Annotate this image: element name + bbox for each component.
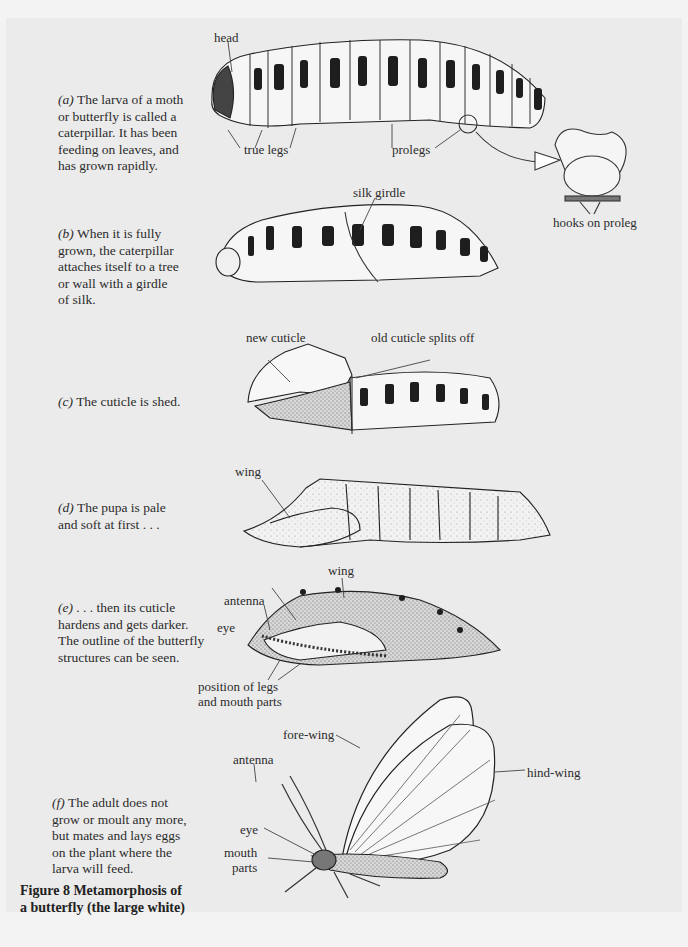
label-true-legs: true legs xyxy=(244,142,288,157)
hardened-pupa-drawing xyxy=(248,587,500,665)
proleg-hooks-detail-drawing xyxy=(555,129,626,214)
figure-title-line-1: Figure 8 Metamorphosis of xyxy=(20,882,240,899)
soft-pupa-drawing xyxy=(244,479,550,547)
label-eye-adult: eye xyxy=(240,822,258,837)
label-position-of-legs: position of legs xyxy=(198,679,278,694)
label-and-mouth-parts: and mouth parts xyxy=(198,694,282,709)
caption-stage-e: (e) . . . then its cuticle hardens and g… xyxy=(58,600,238,666)
caption-stage-a: (a) The larva of a moth or butterfly is … xyxy=(58,92,218,175)
caption-stage-f: (f) The adult does not grow or moult any… xyxy=(52,795,232,878)
cuticle-shedding-drawing xyxy=(248,344,499,434)
label-hind-wing: hind-wing xyxy=(527,765,580,780)
figure-caption: Figure 8 Metamorphosis of a butterfly (t… xyxy=(20,882,240,916)
label-new-cuticle: new cuticle xyxy=(246,330,306,345)
label-parts: parts xyxy=(232,860,257,875)
caterpillar-girdle-drawing xyxy=(216,205,498,282)
figure-title-line-2: a butterfly (the large white) xyxy=(20,899,240,916)
label-prolegs: prolegs xyxy=(392,142,430,157)
label-wing-dark-pupa: wing xyxy=(328,563,354,578)
label-old-cuticle-splits-off: old cuticle splits off xyxy=(371,330,474,345)
caption-stage-c: (c) The cuticle is shed. xyxy=(58,394,228,411)
caption-stage-d: (d) The pupa is pale and soft at first .… xyxy=(58,500,228,533)
label-fore-wing: fore-wing xyxy=(283,727,334,742)
label-hooks-on-proleg: hooks on proleg xyxy=(553,215,637,230)
label-silk-girdle: silk girdle xyxy=(353,185,405,200)
label-head: head xyxy=(214,30,239,45)
caption-stage-b: (b) When it is fully grown, the caterpil… xyxy=(58,226,228,309)
label-wing-pupa: wing xyxy=(235,464,261,479)
label-antenna-adult: antenna xyxy=(233,752,273,767)
